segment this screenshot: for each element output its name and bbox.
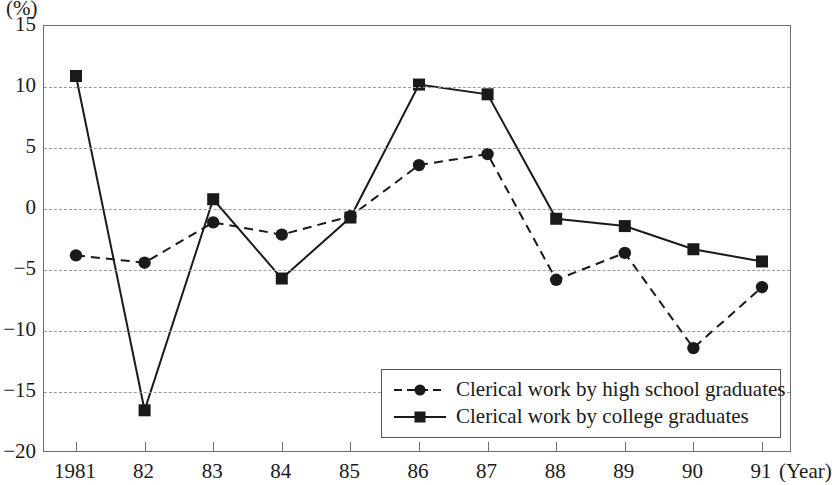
data-point-1-88 bbox=[550, 213, 562, 225]
series-line-0 bbox=[76, 154, 762, 348]
y-tick-label--5: −5 bbox=[14, 258, 36, 279]
legend-key-dashed-circle bbox=[392, 380, 448, 400]
x-tick-label-88: 88 bbox=[545, 461, 566, 482]
x-tick-label-1981: 1981 bbox=[54, 461, 96, 482]
y-tick-label--20: −20 bbox=[3, 441, 36, 462]
x-axis-title: (Year) bbox=[779, 461, 832, 482]
x-tick-82 bbox=[145, 442, 146, 451]
legend-label-college: Clerical work by college graduates bbox=[456, 406, 749, 427]
gridline-y-10 bbox=[44, 87, 790, 88]
data-point-0-83 bbox=[207, 216, 219, 228]
y-tick-label--10: −10 bbox=[3, 319, 36, 340]
data-point-0-82 bbox=[138, 256, 150, 268]
data-point-1-91 bbox=[756, 255, 768, 267]
data-point-0-90 bbox=[687, 342, 699, 354]
y-tick-label--15: −15 bbox=[3, 380, 36, 401]
data-point-1-90 bbox=[687, 243, 699, 255]
x-tick-87 bbox=[488, 442, 489, 451]
data-point-0-1981 bbox=[70, 249, 82, 261]
data-point-1-84 bbox=[276, 273, 288, 285]
chart-legend: Clerical work by high school graduates C… bbox=[381, 369, 781, 438]
y-axis-tick-labels: 151050−5−10−15−20 bbox=[0, 0, 36, 485]
x-tick-88 bbox=[556, 442, 557, 451]
x-tick-91 bbox=[762, 442, 763, 451]
data-point-1-86 bbox=[413, 79, 425, 91]
x-tick-label-89: 89 bbox=[613, 461, 634, 482]
x-tick-83 bbox=[213, 442, 214, 451]
data-point-0-84 bbox=[276, 228, 288, 240]
data-point-1-82 bbox=[139, 404, 151, 416]
x-tick-label-84: 84 bbox=[270, 461, 291, 482]
x-tick-89 bbox=[625, 442, 626, 451]
legend-item-high-school: Clerical work by high school graduates bbox=[392, 376, 770, 403]
data-point-1-85 bbox=[344, 212, 356, 224]
data-point-0-88 bbox=[550, 274, 562, 286]
x-tick-85 bbox=[350, 442, 351, 451]
data-point-0-86 bbox=[413, 159, 425, 171]
data-point-1-83 bbox=[207, 193, 219, 205]
x-tick-86 bbox=[419, 442, 420, 451]
gridline-y--10 bbox=[44, 331, 790, 332]
data-point-1-87 bbox=[482, 88, 494, 100]
y-tick-label-5: 5 bbox=[26, 136, 37, 157]
y-tick-label-15: 15 bbox=[15, 14, 36, 35]
legend-item-college: Clerical work by college graduates bbox=[392, 403, 770, 430]
x-tick-label-90: 90 bbox=[682, 461, 703, 482]
y-tick-label-10: 10 bbox=[15, 75, 36, 96]
gridline-y-5 bbox=[44, 148, 790, 149]
x-tick-label-91: 91 bbox=[751, 461, 772, 482]
data-point-1-1981 bbox=[70, 70, 82, 82]
legend-key-solid-square bbox=[392, 407, 448, 427]
data-point-1-89 bbox=[619, 220, 631, 232]
y-tick-label-0: 0 bbox=[26, 197, 37, 218]
data-point-0-87 bbox=[481, 148, 493, 160]
gridline-y-0 bbox=[44, 209, 790, 210]
x-tick-1981 bbox=[76, 442, 77, 451]
x-tick-90 bbox=[693, 442, 694, 451]
x-tick-84 bbox=[282, 442, 283, 451]
x-tick-label-83: 83 bbox=[202, 461, 223, 482]
gridline-y--5 bbox=[44, 270, 790, 271]
x-tick-label-87: 87 bbox=[476, 461, 497, 482]
x-tick-label-85: 85 bbox=[339, 461, 360, 482]
x-tick-label-86: 86 bbox=[408, 461, 429, 482]
legend-label-high-school: Clerical work by high school graduates bbox=[456, 379, 786, 400]
data-point-0-89 bbox=[619, 247, 631, 259]
data-point-0-91 bbox=[756, 281, 768, 293]
x-tick-label-82: 82 bbox=[133, 461, 154, 482]
